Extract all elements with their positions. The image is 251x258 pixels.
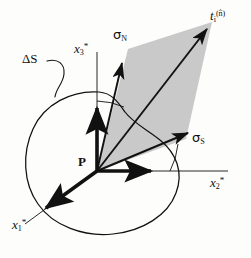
sigma-shear-label: σS [192,131,205,146]
axis-x1-arrow [46,171,97,208]
traction-vector-label: ti(n̂) [210,9,225,24]
figure-container: ti(n̂) σN x3* ΔS σS P x2* x1* [0,0,251,258]
axis-x2-label: x2* [210,176,224,191]
delta-s-leader [47,60,64,97]
axis-x1-label: x1* [12,218,26,233]
delta-s-label: ΔS [22,52,38,65]
axis-x3-label: x3* [74,42,88,57]
point-p-label: P [78,155,86,168]
sigma-normal-label: σN [113,28,127,43]
